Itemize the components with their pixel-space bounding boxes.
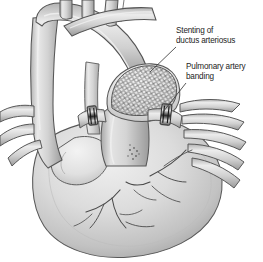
pulmonary-artery-band-left bbox=[87, 106, 98, 126]
annotation-label-stenting-of-ductus-arteriosus: Stenting of ductus arteriosus bbox=[176, 26, 235, 45]
pulmonary-artery-band-right bbox=[160, 104, 172, 126]
medical-illustration-figure: Stenting of ductus arteriosus Pulmonary … bbox=[0, 0, 263, 262]
annotation-label-pulmonary-artery-banding: Pulmonary artery banding bbox=[186, 62, 245, 81]
